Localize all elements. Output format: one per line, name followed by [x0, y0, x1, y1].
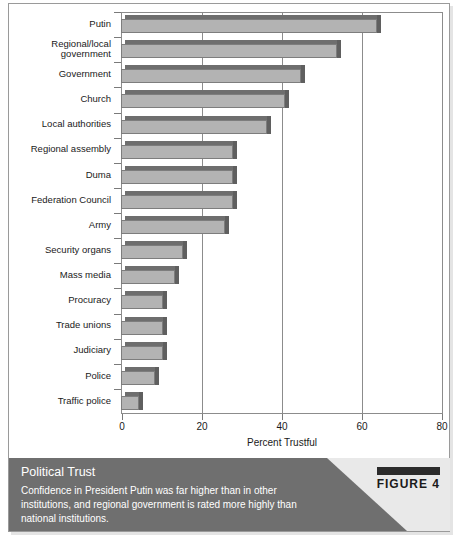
bar-side-face: [285, 90, 289, 108]
bar: [121, 291, 168, 314]
category-tick: [114, 314, 121, 315]
category-label: Church: [80, 94, 111, 105]
x-tick-label: 80: [422, 421, 460, 432]
bar: [121, 342, 168, 365]
caption-title: Political Trust: [21, 465, 95, 479]
bar-front-face: [121, 69, 301, 83]
bar-front-face: [121, 321, 163, 335]
category-label: Judiciary: [74, 345, 112, 356]
figure-badge-rule: [377, 467, 440, 475]
bar: [121, 40, 342, 63]
x-tick-label: 40: [262, 421, 302, 432]
bar-side-face: [175, 266, 179, 284]
category-label: Mass media: [60, 270, 111, 281]
x-tick: [202, 414, 203, 420]
bar: [121, 317, 168, 340]
bar-side-face: [139, 392, 143, 410]
x-axis-title: Percent Trustful: [121, 437, 443, 448]
bar-side-face: [233, 141, 237, 159]
bar-front-face: [121, 145, 233, 159]
bar-front-face: [121, 195, 233, 209]
caption-band: Political Trust Confidence in President …: [9, 458, 450, 531]
bar: [121, 65, 306, 88]
bar: [121, 90, 290, 113]
bar-chart: PutinRegional/local governmentGovernment…: [0, 0, 460, 455]
x-tick-label: 60: [342, 421, 382, 432]
category-label: Government: [59, 69, 111, 80]
x-tick: [362, 414, 363, 420]
bar-side-face: [183, 241, 187, 259]
category-label: Regional assembly: [31, 144, 111, 155]
bar-side-face: [163, 317, 167, 335]
bar-side-face: [155, 367, 159, 385]
category-tick: [114, 238, 121, 239]
figure-badge-label: FIGURE 4: [377, 477, 440, 491]
category-tick: [114, 12, 121, 13]
bar-side-face: [377, 15, 381, 33]
caption-body: Confidence in President Putin was far hi…: [21, 484, 311, 526]
category-tick: [114, 389, 121, 390]
category-label: Army: [89, 220, 111, 231]
category-label: Putin: [89, 19, 111, 30]
category-label: Police: [85, 371, 111, 382]
category-tick: [114, 113, 121, 114]
x-tick: [122, 414, 123, 420]
category-tick: [114, 62, 121, 63]
category-tick: [114, 138, 121, 139]
bar: [121, 216, 230, 239]
figure-container: PutinRegional/local governmentGovernment…: [0, 0, 460, 546]
bar: [121, 367, 160, 390]
category-tick: [114, 339, 121, 340]
category-tick: [114, 364, 121, 365]
category-tick: [114, 263, 121, 264]
bar-front-face: [121, 295, 163, 309]
bar: [121, 116, 272, 139]
category-label: Trade unions: [56, 320, 111, 331]
category-axis-labels: PutinRegional/local governmentGovernment…: [0, 12, 115, 414]
category-tick: [114, 87, 121, 88]
bar: [121, 241, 188, 264]
category-tick: [114, 163, 121, 164]
bar-side-face: [233, 191, 237, 209]
bar-front-face: [121, 346, 163, 360]
x-tick-label: 20: [182, 421, 222, 432]
x-tick-label: 0: [102, 421, 142, 432]
bar: [121, 191, 238, 214]
bar-front-face: [121, 44, 337, 58]
category-label: Security organs: [45, 245, 111, 256]
category-tick: [114, 288, 121, 289]
bar-front-face: [121, 396, 139, 410]
bar-front-face: [121, 371, 155, 385]
category-label: Duma: [86, 170, 111, 181]
bar-side-face: [163, 291, 167, 309]
bar-front-face: [121, 245, 183, 259]
category-label: Regional/local government: [51, 39, 111, 60]
bar-front-face: [121, 19, 377, 33]
category-tick: [114, 213, 121, 214]
bar-front-face: [121, 270, 175, 284]
bar-side-face: [337, 40, 341, 58]
bar-front-face: [121, 220, 225, 234]
bar: [121, 141, 238, 164]
bar-front-face: [121, 170, 233, 184]
x-tick: [442, 414, 443, 420]
bar-front-face: [121, 120, 267, 134]
bar-side-face: [163, 342, 167, 360]
bars-layer: [121, 12, 443, 414]
category-tick: [114, 37, 121, 38]
category-label: Federation Council: [31, 195, 111, 206]
bar: [121, 266, 180, 289]
bar: [121, 166, 238, 189]
category-label: Traffic police: [58, 396, 111, 407]
bar-front-face: [121, 94, 285, 108]
category-label: Local authorities: [42, 119, 111, 130]
bar: [121, 392, 144, 415]
bar-side-face: [233, 166, 237, 184]
bar-side-face: [225, 216, 229, 234]
bar-side-face: [301, 65, 305, 83]
category-tick: [114, 188, 121, 189]
bar: [121, 15, 382, 38]
x-tick: [282, 414, 283, 420]
bar-side-face: [267, 116, 271, 134]
category-label: Procuracy: [68, 295, 111, 306]
